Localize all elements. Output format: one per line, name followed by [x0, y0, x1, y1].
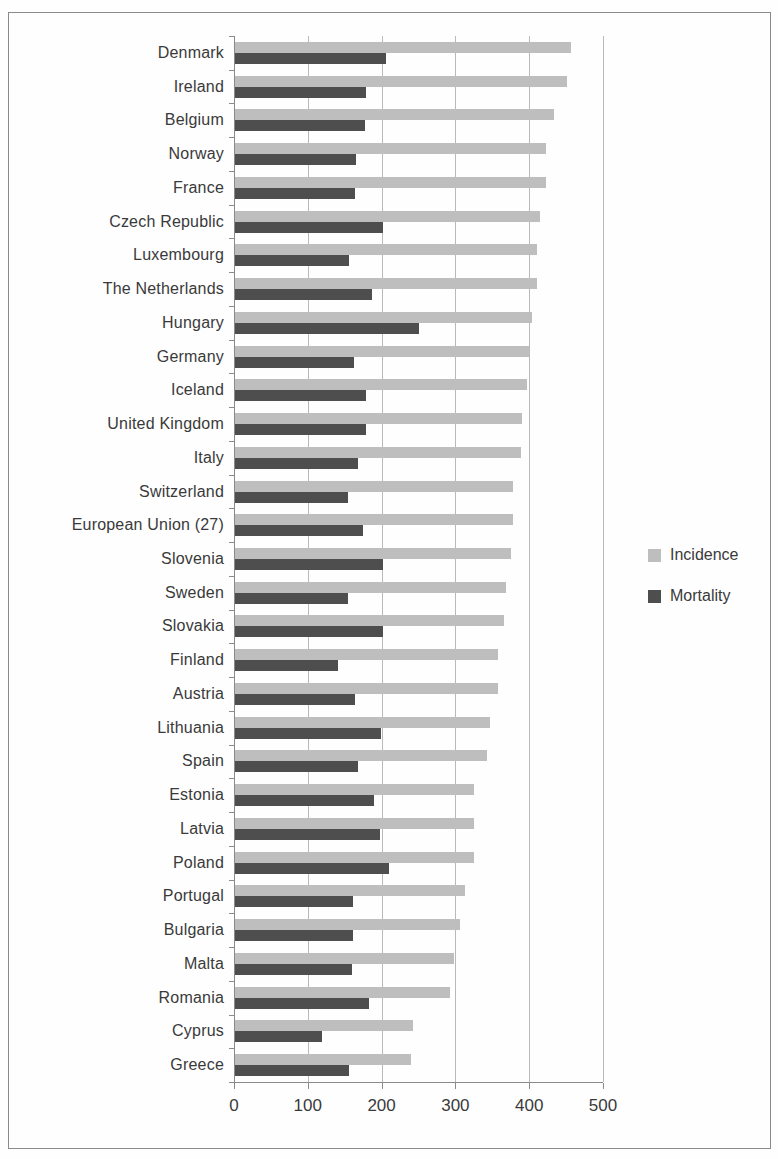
incidence-bar	[235, 885, 465, 896]
incidence-bar	[235, 76, 567, 87]
incidence-bar	[235, 143, 546, 154]
category-label: United Kingdom	[0, 407, 224, 441]
incidence-bar	[235, 784, 474, 795]
x-axis-tick	[529, 1083, 530, 1089]
mortality-bar	[235, 896, 353, 907]
category-label: Bulgaria	[0, 913, 224, 947]
x-tick-label-0: 0	[229, 1096, 238, 1116]
incidence-bar	[235, 987, 450, 998]
incidence-bar	[235, 447, 521, 458]
chart-row-belgium: Belgium	[234, 103, 603, 137]
mortality-bar	[235, 390, 366, 401]
category-label: Sweden	[0, 576, 224, 610]
mortality-bar	[235, 829, 380, 840]
mortality-bar	[235, 424, 366, 435]
category-label: Hungary	[0, 306, 224, 340]
chart-row-france: France	[234, 171, 603, 205]
x-tick-label-200: 200	[367, 1096, 395, 1116]
x-axis-line	[234, 1082, 603, 1083]
legend: Incidence Mortality	[648, 546, 739, 605]
category-label: Estonia	[0, 778, 224, 812]
category-label: Latvia	[0, 812, 224, 846]
chart-row-bulgaria: Bulgaria	[234, 913, 603, 947]
chart-row-united-kingdom: United Kingdom	[234, 407, 603, 441]
mortality-swatch-icon	[648, 590, 661, 603]
chart-row-greece: Greece	[234, 1048, 603, 1082]
chart-row-cyprus: Cyprus	[234, 1015, 603, 1049]
chart-row-ireland: Ireland	[234, 70, 603, 104]
mortality-bar	[235, 53, 386, 64]
chart-row-lithuania: Lithuania	[234, 711, 603, 745]
chart-row-malta: Malta	[234, 947, 603, 981]
mortality-bar	[235, 492, 348, 503]
category-label: Switzerland	[0, 475, 224, 509]
chart-row-iceland: Iceland	[234, 373, 603, 407]
chart-row-slovakia: Slovakia	[234, 610, 603, 644]
mortality-bar	[235, 289, 372, 300]
mortality-bar	[235, 357, 354, 368]
mortality-bar	[235, 728, 381, 739]
category-label: Lithuania	[0, 711, 224, 745]
incidence-bar	[235, 953, 454, 964]
chart-row-sweden: Sweden	[234, 576, 603, 610]
legend-item-incidence: Incidence	[648, 546, 739, 564]
chart-row-european-union-27-: European Union (27)	[234, 508, 603, 542]
incidence-bar	[235, 1020, 413, 1031]
category-label: Poland	[0, 846, 224, 880]
mortality-bar	[235, 1065, 349, 1076]
legend-label-incidence: Incidence	[670, 546, 739, 564]
chart-row-latvia: Latvia	[234, 812, 603, 846]
chart-row-romania: Romania	[234, 981, 603, 1015]
mortality-bar	[235, 255, 349, 266]
incidence-bar	[235, 413, 522, 424]
x-tick-label-400: 400	[515, 1096, 543, 1116]
x-axis-tick	[308, 1083, 309, 1089]
category-label: Cyprus	[0, 1015, 224, 1049]
category-label: Italy	[0, 441, 224, 475]
legend-item-mortality: Mortality	[648, 587, 739, 605]
x-axis-tick-labels: 0100200300400500	[234, 1096, 603, 1120]
mortality-bar	[235, 87, 366, 98]
plot-area: DenmarkIrelandBelgiumNorwayFranceCzech R…	[234, 36, 603, 1082]
mortality-bar	[235, 626, 383, 637]
mortality-bar	[235, 525, 363, 536]
chart-row-poland: Poland	[234, 846, 603, 880]
legend-label-mortality: Mortality	[670, 587, 730, 605]
category-label: Iceland	[0, 373, 224, 407]
chart-row-estonia: Estonia	[234, 778, 603, 812]
category-label: Ireland	[0, 70, 224, 104]
incidence-bar	[235, 683, 498, 694]
incidence-bar	[235, 649, 498, 660]
incidence-bar	[235, 514, 513, 525]
category-label: Finland	[0, 643, 224, 677]
mortality-bar	[235, 795, 374, 806]
incidence-bar	[235, 211, 540, 222]
chart-row-germany: Germany	[234, 340, 603, 374]
chart-row-the-netherlands: The Netherlands	[234, 272, 603, 306]
incidence-bar	[235, 919, 460, 930]
category-label: Belgium	[0, 103, 224, 137]
incidence-bar	[235, 177, 546, 188]
mortality-bar	[235, 120, 365, 131]
chart-row-denmark: Denmark	[234, 36, 603, 70]
category-label: Norway	[0, 137, 224, 171]
mortality-bar	[235, 1031, 322, 1042]
mortality-bar	[235, 188, 355, 199]
category-label: Spain	[0, 745, 224, 779]
incidence-bar	[235, 312, 532, 323]
x-axis-tick	[382, 1083, 383, 1089]
x-tick-label-300: 300	[441, 1096, 469, 1116]
mortality-bar	[235, 222, 383, 233]
chart-row-luxembourg: Luxembourg	[234, 238, 603, 272]
chart-row-italy: Italy	[234, 441, 603, 475]
mortality-bar	[235, 694, 355, 705]
incidence-bar	[235, 615, 504, 626]
category-label: Denmark	[0, 36, 224, 70]
x-tick-label-100: 100	[294, 1096, 322, 1116]
incidence-bar	[235, 582, 506, 593]
category-label: Malta	[0, 947, 224, 981]
chart-row-hungary: Hungary	[234, 306, 603, 340]
x-axis-tick	[603, 1083, 604, 1089]
category-label: Slovenia	[0, 542, 224, 576]
category-label: France	[0, 171, 224, 205]
